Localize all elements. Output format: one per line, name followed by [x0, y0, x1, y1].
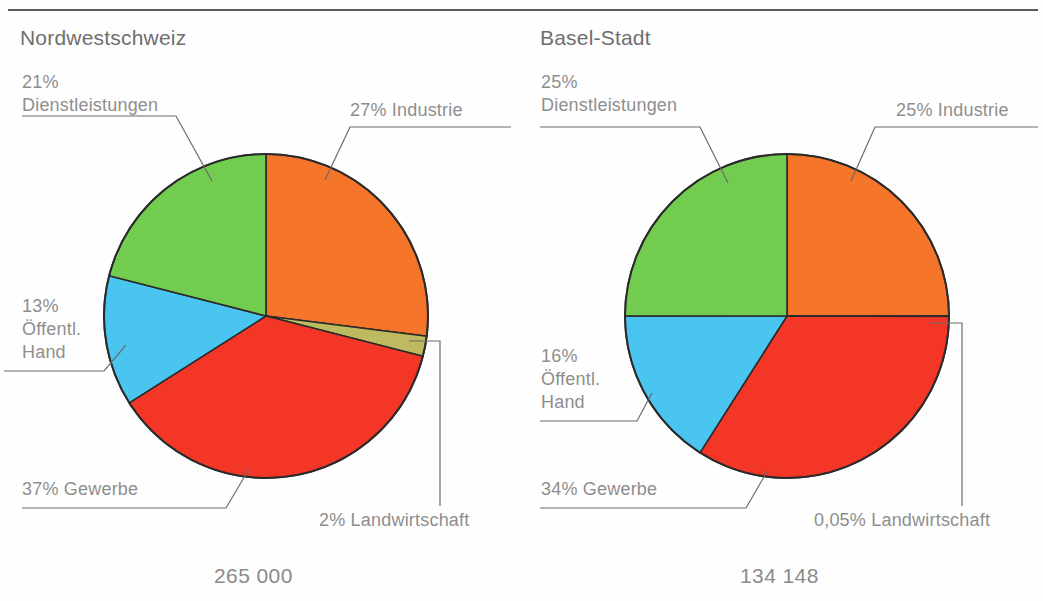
label-landwirtschaft-right: 0,05% Landwirtschaft: [814, 509, 990, 532]
label-dienstleistungen-right: 25% Dienstleistungen: [541, 71, 677, 117]
leader-landwirtschaft-right: [930, 323, 962, 506]
label-industrie-right: 25% Industrie: [896, 99, 1009, 122]
leader-dienstleistungen-right: [540, 127, 728, 183]
chart-page: Nordwestschweiz 21% Dienstleistungen 27%…: [0, 0, 1043, 601]
label-gewerbe-right: 34% Gewerbe: [541, 478, 657, 501]
label-oeffentliche-hand-right: 16% Öffentl. Hand: [541, 345, 600, 414]
total-value-right: 134 148: [740, 564, 819, 588]
leader-industrie-right: [851, 127, 1038, 181]
